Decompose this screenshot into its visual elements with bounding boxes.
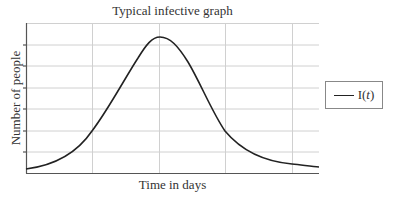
- x-axis-label: Time in days: [26, 177, 319, 193]
- grid: [26, 23, 319, 173]
- legend-label: I(t): [358, 87, 375, 103]
- legend-line-swatch: [334, 95, 354, 96]
- infective-curve-line: [26, 37, 319, 169]
- chart-title: Typical infective graph: [26, 3, 319, 19]
- legend: I(t): [325, 81, 383, 109]
- y-axis-label: Number of people: [8, 51, 24, 146]
